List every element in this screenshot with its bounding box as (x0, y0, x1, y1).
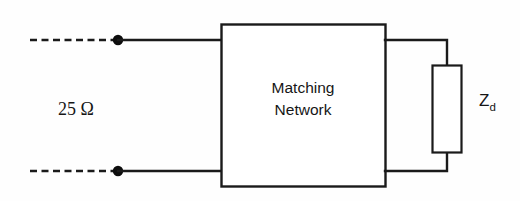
load-impedance-label: Zd (479, 91, 496, 113)
matching-network-label-line1: Matching (272, 79, 335, 96)
circuit-diagram: 25 Ω Matching Network Zd (0, 0, 520, 201)
output-wire-top (385, 40, 447, 65)
load-impedance-subscript: d (489, 101, 495, 113)
circuit-schematic-canvas: 25 Ω Matching Network Zd (0, 0, 520, 201)
matching-network-label-line2: Network (275, 101, 332, 118)
output-wire-bottom (385, 152, 447, 171)
load-impedance-symbol: Z (479, 91, 489, 110)
source-impedance-label: 25 Ω (58, 99, 94, 119)
load-resistor-body (433, 66, 462, 153)
